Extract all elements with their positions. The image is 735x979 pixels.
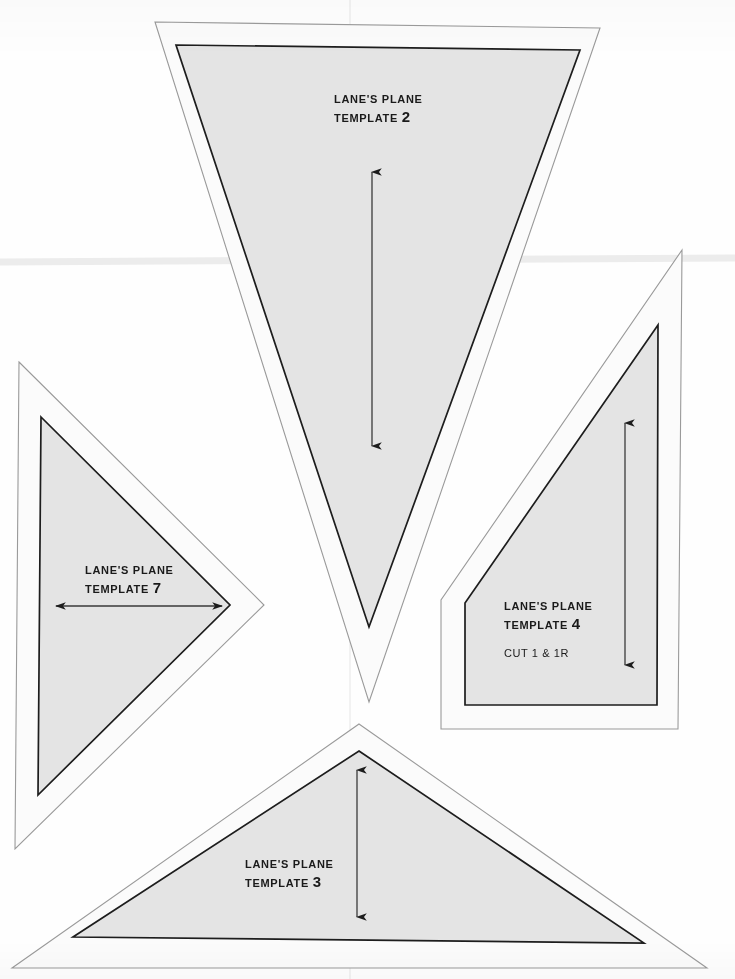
template-4-word: TEMPLATE [504,619,568,631]
template-3-name: TEMPLATE 3 [245,873,334,892]
pattern-sheet: LANE'S PLANE TEMPLATE 2 LANE'S PLANE TEM… [0,0,735,979]
template-4-label: LANE'S PLANE TEMPLATE 4 CUT 1 & 1R [504,598,593,662]
template-4-cut-note: CUT 1 & 1R [504,645,593,662]
template-shapes-layer [0,0,735,979]
template-7-word: TEMPLATE [85,583,149,595]
template-7-label: LANE'S PLANE TEMPLATE 7 [85,562,174,598]
template-2-name: TEMPLATE 2 [334,108,423,127]
template-3-shape[interactable] [12,724,707,968]
template-7-shape[interactable] [15,362,264,849]
template-2-word: TEMPLATE [334,112,398,124]
template-2-number: 2 [402,108,411,125]
template-7-brand: LANE'S PLANE [85,562,174,579]
template-3-word: TEMPLATE [245,877,309,889]
template-7-number: 7 [153,579,162,596]
template-3-brand: LANE'S PLANE [245,856,334,873]
template-2-label: LANE'S PLANE TEMPLATE 2 [334,91,423,127]
template-4-name: TEMPLATE 4 [504,615,593,634]
template-7-name: TEMPLATE 7 [85,579,174,598]
template-4-number: 4 [572,615,581,632]
template-2-brand: LANE'S PLANE [334,91,423,108]
template-3-number: 3 [313,873,322,890]
template-4-brand: LANE'S PLANE [504,598,593,615]
template-3-label: LANE'S PLANE TEMPLATE 3 [245,856,334,892]
template-3-cut-piece [73,751,644,943]
